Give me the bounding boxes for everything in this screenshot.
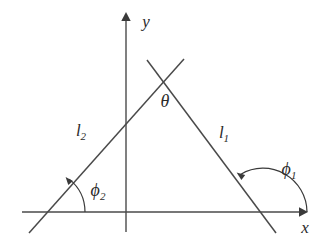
y-axis-arrowhead: [121, 12, 130, 21]
angle-arc-phi-2: [69, 179, 85, 212]
line-l1-label-subscript: 1: [224, 132, 230, 144]
angle-phi-1-label-base: ϕ: [282, 159, 291, 179]
geometry-figure: y x θ l2 l1 ϕ2 ϕ1: [0, 0, 326, 241]
line-l2: [29, 59, 184, 233]
angle-arc-phi-1: [241, 168, 308, 212]
geometry-canvas: y x θ l2 l1 ϕ2 ϕ1: [0, 0, 326, 241]
angle-phi-2-label: ϕ2: [91, 180, 106, 201]
labels-group: y x θ l2 l1 ϕ2 ϕ1: [76, 12, 309, 237]
angle-phi-1-label: ϕ1: [282, 159, 297, 180]
y-axis-label: y: [140, 12, 150, 31]
angle-arc-phi-2-arrowhead: [66, 177, 73, 185]
angle-theta-label: θ: [161, 91, 170, 111]
lines-group: [29, 59, 276, 233]
angle-phi-2-label-subscript: 2: [100, 190, 106, 202]
angle-phi-1-label-subscript: 1: [291, 169, 297, 181]
x-axis-label: x: [300, 218, 309, 237]
line-l2-label: l2: [76, 121, 87, 142]
axes-group: [22, 12, 308, 232]
angle-phi-2-label-base: ϕ: [91, 180, 100, 200]
line-l1-label: l1: [219, 123, 229, 144]
line-l1: [147, 60, 276, 233]
line-l2-label-subscript: 2: [81, 130, 87, 142]
